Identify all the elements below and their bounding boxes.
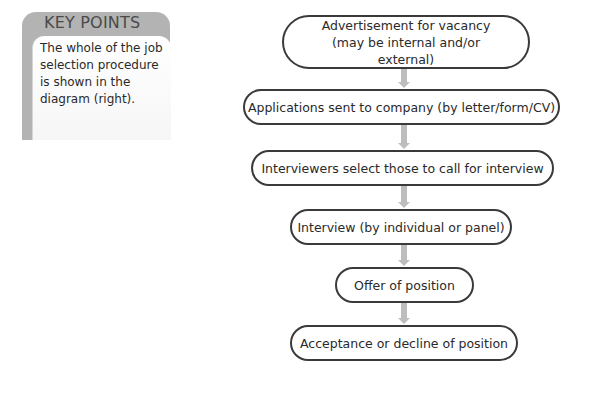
arrow-down-icon (401, 125, 407, 144)
arrow-down-icon (401, 303, 407, 319)
flow-node-shortlist: Interviewers select those to call for in… (251, 150, 554, 186)
key-points-title: KEY POINTS (44, 13, 140, 32)
key-points-text: The whole of the job selection procedure… (40, 40, 166, 108)
arrow-down-icon (401, 186, 407, 203)
flow-node-interview: Interview (by individual or panel) (290, 209, 512, 245)
flow-node-advertisement: Advertisement for vacancy (may be intern… (282, 15, 530, 69)
arrow-down-icon (401, 245, 407, 261)
flow-node-acceptance: Acceptance or decline of position (290, 325, 518, 361)
flow-node-applications: Applications sent to company (by letter/… (243, 89, 560, 125)
flow-node-offer: Offer of position (335, 267, 474, 303)
arrow-down-icon (401, 69, 407, 83)
